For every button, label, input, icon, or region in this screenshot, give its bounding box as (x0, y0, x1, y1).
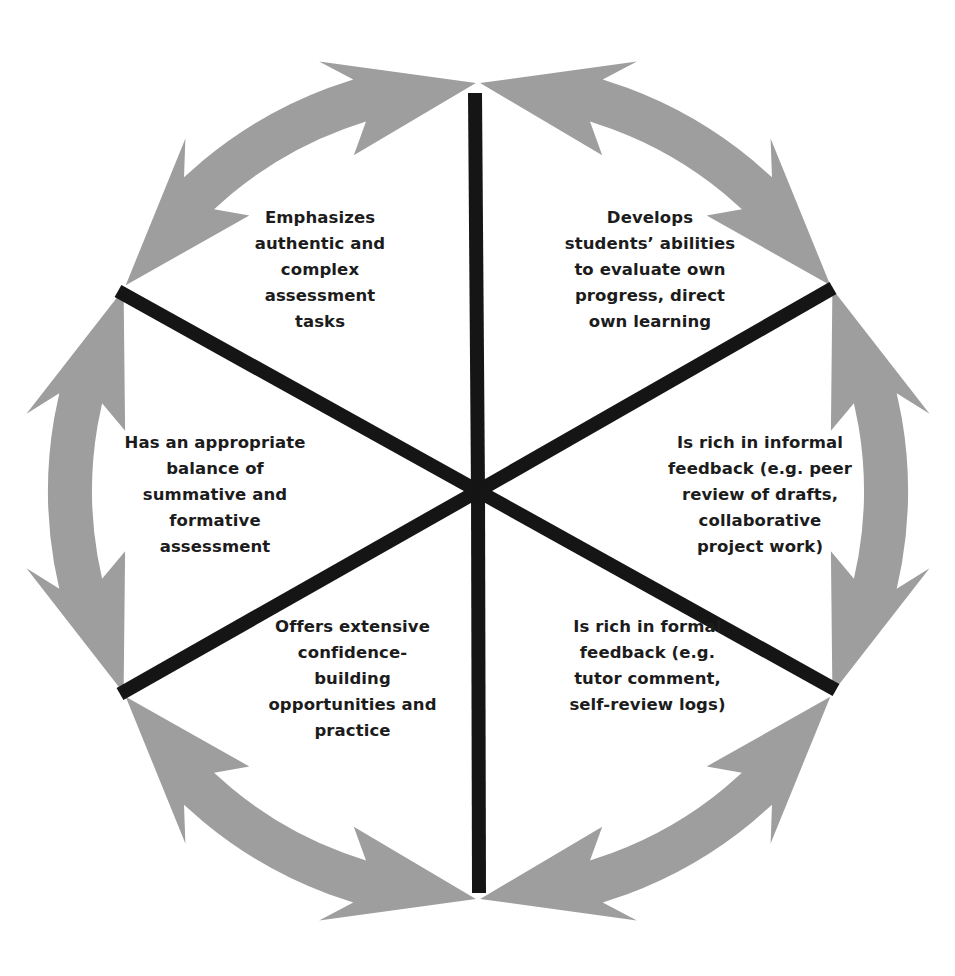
label-line: Has an appropriate (95, 430, 335, 456)
double-arrow-segment-icon (480, 697, 830, 921)
sector-label-self-evaluation: Develops students’ abilities to evaluate… (515, 205, 785, 335)
sector-label-informal-feedback: Is rich in informal feedback (e.g. peer … (640, 430, 880, 560)
label-line: feedback (e.g. peer (640, 456, 880, 482)
label-line: Is rich in formal (535, 614, 760, 640)
sector-label-formal-feedback: Is rich in formal feedback (e.g. tutor c… (535, 614, 760, 718)
label-line: summative and (95, 482, 335, 508)
label-line: collaborative (640, 508, 880, 534)
label-line: practice (235, 718, 470, 744)
label-line: Emphasizes (195, 205, 445, 231)
sector-label-authentic-assessment: Emphasizes authentic and complex assessm… (195, 205, 445, 335)
label-line: confidence- (235, 640, 470, 666)
label-line: tasks (195, 309, 445, 335)
label-line: progress, direct (515, 283, 785, 309)
label-line: Is rich in informal (640, 430, 880, 456)
label-line: assessment (95, 534, 335, 560)
label-line: formative (95, 508, 335, 534)
label-line: Develops (515, 205, 785, 231)
label-line: review of drafts, (640, 482, 880, 508)
spoke-line (478, 491, 479, 893)
label-line: students’ abilities (515, 231, 785, 257)
label-line: complex (195, 257, 445, 283)
label-line: building (235, 666, 470, 692)
spoke-line (475, 93, 478, 491)
label-line: tutor comment, (535, 666, 760, 692)
label-line: project work) (640, 534, 880, 560)
label-line: authentic and (195, 231, 445, 257)
label-line: Offers extensive (235, 614, 470, 640)
label-line: to evaluate own (515, 257, 785, 283)
sector-label-confidence-building: Offers extensive confidence- building op… (235, 614, 470, 744)
sector-label-summative-formative-balance: Has an appropriate balance of summative … (95, 430, 335, 560)
label-line: self-review logs) (535, 692, 760, 718)
label-line: opportunities and (235, 692, 470, 718)
label-line: feedback (e.g. (535, 640, 760, 666)
label-line: assessment (195, 283, 445, 309)
label-line: own learning (515, 309, 785, 335)
label-line: balance of (95, 456, 335, 482)
